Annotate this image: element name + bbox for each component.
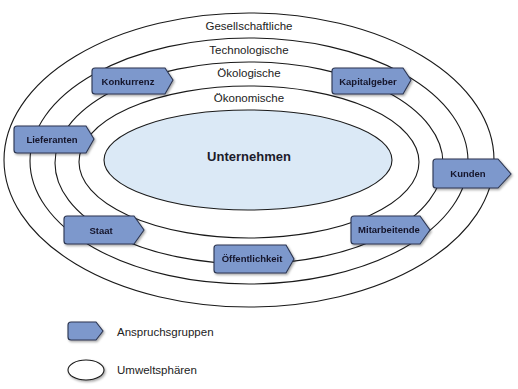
- stakeholder-staat: Staat: [64, 216, 144, 244]
- stakeholder-konkurrenz: Konkurrenz: [92, 68, 173, 94]
- stakeholder-kapitalgeber: Kapitalgeber: [332, 68, 411, 94]
- legend-label: Anspruchsgruppen: [117, 326, 214, 338]
- company-label: Unternehmen: [207, 149, 291, 164]
- legend-item-umweltsphaeren: Umweltsphären: [68, 360, 197, 380]
- legend-item-anspruchsgruppen: Anspruchsgruppen: [68, 322, 214, 340]
- sphere-label: Gesellschaftliche: [206, 20, 293, 32]
- stakeholder-lieferanten: Lieferanten: [14, 126, 94, 153]
- stakeholder-oeffentlichkeit: Öffentlichkeit: [214, 245, 294, 273]
- stakeholder-label: Kunden: [450, 168, 486, 179]
- sphere-ellipse-icon: [68, 360, 104, 380]
- stakeholder-kunden: Kunden: [433, 159, 511, 188]
- legend: Anspruchsgruppen Umweltsphären: [68, 322, 214, 380]
- stakeholder-tag-icon: [68, 322, 103, 340]
- stakeholder-label: Lieferanten: [26, 134, 77, 145]
- legend-label: Umweltsphären: [117, 364, 197, 376]
- sphere-label: Ökologische: [217, 67, 280, 79]
- stakeholder-diagram: Gesellschaftliche Technologische Ökologi…: [0, 0, 518, 389]
- stakeholder-mitarbeitende: Mitarbeitende: [351, 216, 430, 244]
- stakeholder-label: Mitarbeitende: [358, 224, 420, 235]
- stakeholder-label: Kapitalgeber: [339, 76, 397, 87]
- sphere-label: Ökonomische: [214, 92, 284, 104]
- sphere-label: Technologische: [209, 44, 288, 56]
- stakeholder-label: Konkurrenz: [102, 76, 155, 87]
- stakeholder-label: Staat: [89, 225, 113, 236]
- stakeholder-label: Öffentlichkeit: [222, 253, 284, 264]
